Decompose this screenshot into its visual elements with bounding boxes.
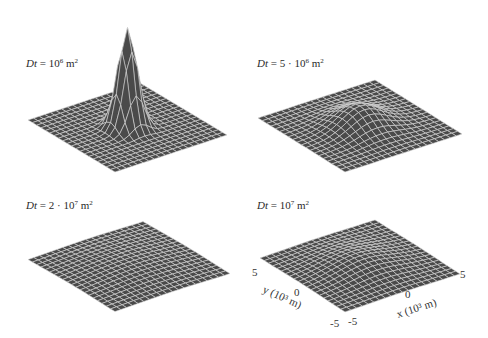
surface-plots: 5 0 -5 -5 0 5 y (10³ m) x (10³ m)	[0, 0, 488, 338]
x-tick-5: 5	[460, 268, 466, 280]
y-tick-5: 5	[252, 266, 258, 278]
surface-plot-dt-1e6	[28, 28, 227, 173]
x-tick-0: 0	[405, 288, 411, 300]
y-tick-minus5: -5	[330, 317, 340, 329]
surface-plot-dt-2e7	[28, 222, 230, 312]
x-tick-minus5: -5	[348, 315, 358, 327]
surface-plot-dt-5e6	[258, 80, 462, 172]
x-axis-title: x (10³ m)	[395, 296, 439, 321]
